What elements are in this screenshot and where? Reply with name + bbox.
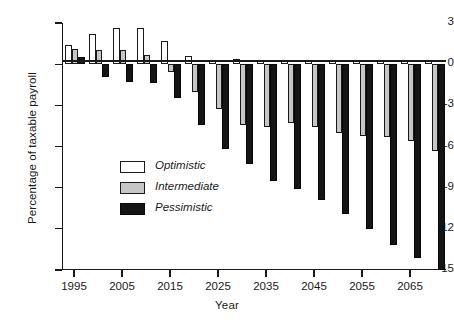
bar-pes-2020 [198, 64, 204, 124]
legend-swatch-opt [120, 161, 145, 173]
bar-pes-2045 [318, 64, 324, 200]
bar-pes-2065 [414, 64, 420, 257]
bar-pes-2000 [102, 64, 108, 76]
bar-pes-2005 [126, 64, 132, 82]
x-tick-label: 2065 [380, 280, 440, 292]
x-tick-mark [169, 270, 170, 277]
x-tick-mark [73, 270, 74, 277]
bar-pes-2040 [294, 64, 300, 189]
y-tick-mark [55, 105, 62, 106]
bar-pes-2070 [438, 64, 444, 270]
y-tick-mark [55, 22, 62, 23]
x-tick-mark [265, 270, 266, 277]
legend-label: Intermediate [155, 180, 219, 192]
bar-pes-2015 [174, 64, 180, 98]
legend-label: Optimistic [155, 159, 205, 171]
y-tick-mark [55, 187, 62, 188]
bar-pes-2055 [366, 64, 372, 229]
bar-int-2000 [96, 50, 102, 64]
bar-pes-2030 [246, 64, 252, 164]
y-axis-title: Percentage of taxable payroll [26, 23, 38, 273]
legend-swatch-pes [120, 203, 145, 215]
x-tick-mark [361, 270, 362, 277]
bar-pes-2025 [222, 64, 228, 149]
x-axis-title: Year [0, 299, 454, 311]
zero-baseline [62, 60, 446, 61]
bar-pes-2060 [390, 64, 396, 245]
chart-figure: Percentage of taxable payroll Year 30-3-… [0, 0, 454, 325]
bar-int-2005 [120, 50, 126, 64]
bar-pes-2035 [270, 64, 276, 181]
bar-pes-2050 [342, 64, 348, 214]
y-tick-mark [55, 269, 62, 270]
y-tick-mark [55, 64, 62, 65]
x-tick-mark [313, 270, 314, 277]
x-tick-mark [121, 270, 122, 277]
y-tick-mark [55, 146, 62, 147]
legend-label: Pessimistic [155, 201, 213, 213]
y-tick-mark [55, 228, 62, 229]
x-tick-mark [217, 270, 218, 277]
x-tick-mark [409, 270, 410, 277]
legend-swatch-int [120, 182, 145, 194]
bar-pes-2010 [150, 64, 156, 83]
